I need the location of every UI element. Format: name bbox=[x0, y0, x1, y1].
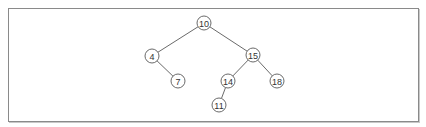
node-label: 4 bbox=[149, 52, 154, 62]
node-label: 14 bbox=[223, 77, 233, 87]
edge-15-18 bbox=[258, 60, 273, 76]
tree-node-14: 14 bbox=[221, 74, 235, 88]
tree-node-7: 7 bbox=[171, 74, 185, 88]
node-label: 11 bbox=[214, 101, 223, 111]
edge-4-7 bbox=[157, 61, 173, 76]
tree-node-18: 18 bbox=[270, 74, 284, 88]
node-label: 18 bbox=[272, 77, 282, 87]
node-label: 10 bbox=[199, 19, 209, 29]
node-label: 7 bbox=[175, 77, 180, 87]
edge-10-4 bbox=[158, 27, 198, 52]
edge-10-15 bbox=[210, 27, 247, 51]
tree-node-4: 4 bbox=[145, 49, 159, 63]
tree-node-10: 10 bbox=[197, 16, 211, 30]
binary-tree-diagram: 104715141811 bbox=[0, 0, 426, 127]
tree-node-11: 11 bbox=[212, 98, 226, 112]
edge-15-14 bbox=[233, 60, 248, 76]
node-label: 15 bbox=[248, 51, 258, 61]
tree-edges bbox=[157, 27, 272, 99]
tree-node-15: 15 bbox=[246, 48, 260, 62]
edge-14-11 bbox=[221, 88, 225, 99]
